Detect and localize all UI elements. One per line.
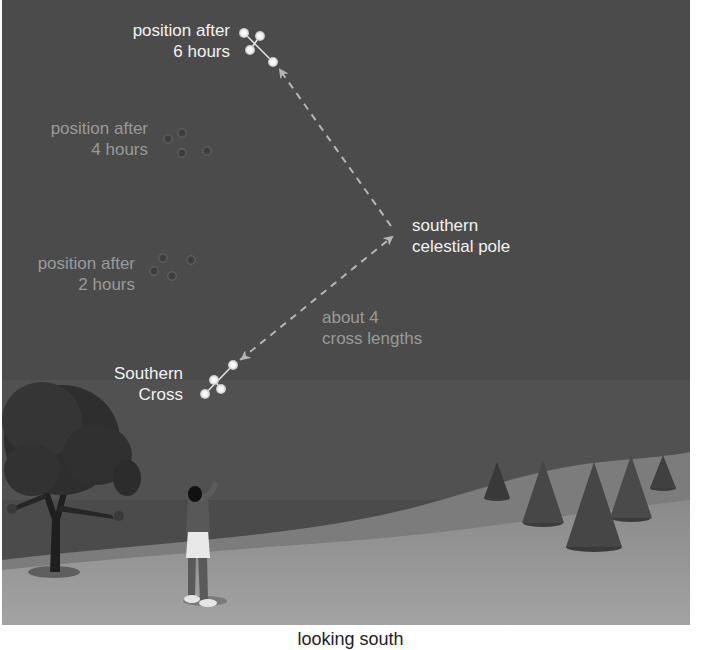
label-southern-cross: Southern Cross	[82, 363, 183, 405]
figure-caption: looking south	[0, 628, 701, 648]
label-line: 4 hours	[14, 139, 148, 160]
label-line: position after	[14, 118, 148, 139]
label-line: about 4	[322, 307, 422, 328]
label-line: 2 hours	[2, 274, 135, 295]
label-line: cross lengths	[322, 328, 422, 349]
star-icon	[245, 45, 255, 55]
label-line: position after	[92, 20, 230, 41]
label-line: southern	[412, 215, 510, 236]
night-sky-scene: position after 6 hours position after 4 …	[2, 0, 690, 625]
label-line: 6 hours	[92, 41, 230, 62]
star-icon	[216, 384, 226, 394]
star-icon	[200, 389, 210, 399]
star-icon	[228, 360, 238, 370]
star-icon	[255, 31, 265, 41]
label-line: position after	[2, 253, 135, 274]
label-position-after-2-hours: position after 2 hours	[2, 253, 135, 295]
star-icon	[239, 28, 249, 38]
label-line: Cross	[82, 384, 183, 405]
label-about-4-cross-lengths: about 4 cross lengths	[322, 307, 422, 349]
label-position-after-4-hours: position after 4 hours	[14, 118, 148, 160]
label-line: Southern	[82, 363, 183, 384]
label-position-after-6-hours: position after 6 hours	[92, 20, 230, 62]
star-icon	[268, 57, 278, 67]
label-line: celestial pole	[412, 236, 510, 257]
star-icon	[209, 375, 219, 385]
label-southern-celestial-pole: southern celestial pole	[412, 215, 510, 257]
